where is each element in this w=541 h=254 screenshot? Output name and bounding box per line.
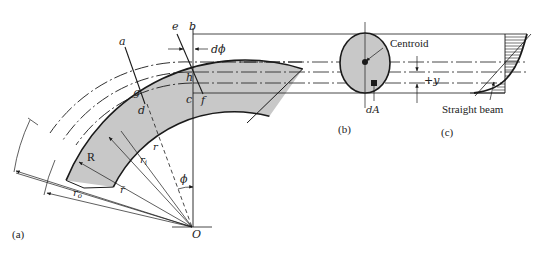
straight-beam-leader bbox=[490, 82, 494, 100]
dphi-label: dϕ bbox=[211, 43, 226, 56]
straight-beam-label: Straight beam bbox=[442, 103, 504, 115]
rbar-label: r̄ bbox=[120, 184, 126, 195]
panel-c-stress-distribution: Straight beam (c) bbox=[441, 34, 531, 139]
r-label: r bbox=[153, 141, 159, 152]
origin-O-label: O bbox=[192, 228, 201, 241]
panel-b-cross-section: Centroid dA +y (b) bbox=[338, 22, 440, 136]
point-R-label: R bbox=[87, 150, 95, 164]
panel-c-label: (c) bbox=[441, 126, 454, 139]
section-left-edge-2 bbox=[84, 187, 113, 188]
ext-arc-ro bbox=[14, 120, 30, 172]
dA-label: dA bbox=[366, 104, 380, 115]
centroid-label: Centroid bbox=[390, 37, 429, 49]
point-g-label: g bbox=[133, 86, 140, 99]
plus-y-label: +y bbox=[424, 74, 440, 87]
ext-arc-rbar bbox=[44, 160, 55, 195]
ro-label-sub: o bbox=[78, 192, 82, 200]
dim-line-r-inner bbox=[79, 162, 192, 227]
point-h-label: h bbox=[186, 71, 193, 84]
ri-label: ri bbox=[140, 154, 147, 167]
curved-beam-diagram: a e b dϕ h g c f d R r ri r̄ ro ϕ O (a) … bbox=[0, 0, 541, 254]
panel-a-curved-beam: a e b dϕ h g c f d R r ri r̄ ro ϕ O (a) bbox=[12, 20, 303, 241]
ri-label-sub: i bbox=[145, 159, 147, 167]
point-e-label: e bbox=[172, 20, 179, 33]
panel-a-label: (a) bbox=[12, 228, 25, 241]
phi-angle-arc bbox=[178, 187, 193, 189]
phi-label: ϕ bbox=[180, 173, 188, 186]
point-d-label: d bbox=[138, 104, 145, 117]
point-c-label: c bbox=[186, 93, 192, 106]
point-b-label: b bbox=[189, 20, 196, 33]
dA-element bbox=[371, 80, 377, 86]
point-a-label: a bbox=[119, 35, 126, 48]
panel-b-label: (b) bbox=[338, 123, 351, 136]
ro-label: ro bbox=[73, 187, 82, 200]
